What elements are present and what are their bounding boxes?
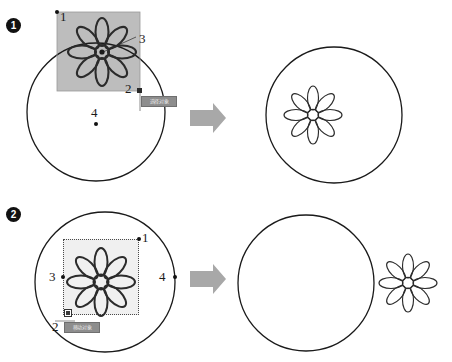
flower-motif-left[interactable]: [68, 18, 136, 86]
marker-label-2: 2: [52, 319, 59, 335]
transform-arrow-2: [190, 264, 226, 294]
marker-label-4: 4: [91, 105, 98, 121]
handle-corner-top-right[interactable]: [137, 237, 141, 241]
handle-side-left[interactable]: [61, 275, 65, 279]
marker-label-2: 2: [125, 81, 132, 97]
marker-label-3: 3: [49, 269, 56, 285]
flower-motif-left[interactable]: [67, 248, 135, 316]
tooltip-badge-select: 选择对象: [141, 96, 177, 107]
flower-center-ring: [307, 109, 318, 120]
panel-1-stage: 1 2 3 4 选择对象: [0, 0, 452, 181]
handle-corner-bottom-left[interactable]: [64, 309, 72, 317]
flower-petals: [284, 86, 342, 144]
flower-petals: [67, 248, 135, 316]
marker-label-3: 3: [139, 31, 146, 47]
circle-outline-right[interactable]: [238, 215, 374, 351]
panel-2-vector-layer: [0, 181, 452, 362]
marker-label-1: 1: [60, 9, 67, 25]
tooltip-text: 移动对象: [65, 323, 99, 331]
handle-side-right[interactable]: [173, 275, 177, 279]
handle-corner-bottom-right[interactable]: [137, 88, 142, 93]
panel-step-2: 2: [0, 181, 452, 362]
tooltip-badge-move: 移动对象: [64, 322, 100, 333]
selection-box-border[interactable]: [57, 12, 140, 91]
flower-petals: [379, 254, 437, 312]
marker-label-1: 1: [142, 230, 149, 246]
circle-outline-right[interactable]: [266, 47, 402, 183]
flower-motif-right[interactable]: [379, 254, 437, 312]
handle-corner-top-left[interactable]: [55, 10, 59, 14]
panel-1-vector-layer: [0, 0, 452, 181]
flower-center-pivot-dot[interactable]: [99, 49, 104, 54]
panel-step-1: 1: [0, 0, 452, 181]
transform-arrow-1: [190, 103, 226, 133]
panel-2-stage: 1 2 3 4 移动对象: [0, 181, 452, 362]
flower-motif-right[interactable]: [284, 86, 342, 144]
marker-label-4: 4: [159, 269, 166, 285]
tooltip-text: 选择对象: [142, 97, 176, 105]
flower-center-ring: [402, 277, 413, 288]
circle-center-dot[interactable]: [94, 122, 98, 126]
